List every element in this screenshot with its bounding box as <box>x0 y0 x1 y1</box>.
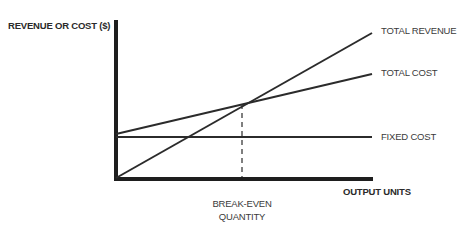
break-even-label: BREAK-EVEN QUANTITY <box>212 198 272 222</box>
total-revenue-label: TOTAL REVENUE <box>381 25 456 36</box>
y-axis-label: REVENUE OR COST ($) <box>8 20 110 31</box>
fixed-cost-label: FIXED COST <box>381 131 436 142</box>
total-cost-line <box>116 74 372 134</box>
break-even-label-line1: BREAK-EVEN <box>212 198 272 209</box>
total-cost-label: TOTAL COST <box>381 67 437 78</box>
break-even-label-line2: QUANTITY <box>212 211 272 222</box>
x-axis-label: OUTPUT UNITS <box>343 186 411 197</box>
total-revenue-line <box>116 33 372 178</box>
